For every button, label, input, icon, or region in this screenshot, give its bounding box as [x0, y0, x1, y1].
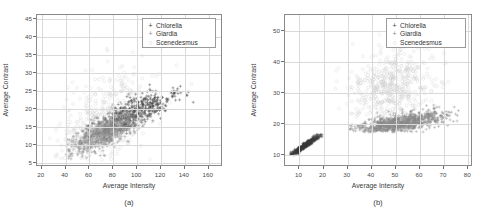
- y-axis-tick: [281, 30, 284, 31]
- x-axis-tick-label: 50: [391, 171, 398, 178]
- y-axis-tick-label: 30: [14, 68, 32, 75]
- y-axis-tick-label: 40: [262, 57, 280, 64]
- gridline-vertical: [324, 15, 325, 165]
- x-axis-tick: [208, 166, 209, 169]
- legend-marker-plus-icon: +: [146, 30, 155, 37]
- legend-item-chlorella: +Chlorella: [390, 21, 461, 30]
- x-axis-tick: [443, 166, 444, 169]
- x-axis-title-a: Average Intensity: [103, 182, 155, 189]
- legend-label: Scenedesmus: [156, 39, 198, 46]
- legend-label: Scenedesmus: [400, 39, 442, 46]
- y-axis-tick: [281, 123, 284, 124]
- scatter-figure: 2040608010012014016051015202530354045 +C…: [0, 0, 502, 218]
- legend-b: +Chlorella+Giardia○Scenedesmus: [386, 18, 466, 48]
- legend-item-scenedesmus: ○Scenedesmus: [390, 38, 461, 47]
- legend-label: Chlorella: [400, 22, 426, 29]
- y-axis-tick-label: 10: [14, 141, 32, 148]
- x-axis-tick-label: 20: [37, 171, 44, 178]
- x-axis-tick: [395, 166, 396, 169]
- y-axis-tick-label: 35: [14, 50, 32, 57]
- y-axis-tick: [33, 126, 36, 127]
- y-axis-tick: [33, 144, 36, 145]
- y-axis-tick-label: 15: [14, 123, 32, 130]
- gridline-horizontal: [37, 55, 221, 56]
- y-axis-tick-label: 30: [262, 88, 280, 95]
- x-axis-tick: [65, 166, 66, 169]
- x-axis-tick-label: 60: [85, 171, 92, 178]
- legend-marker-plus-icon: +: [390, 30, 399, 37]
- x-axis-tick: [467, 166, 468, 169]
- x-axis-tick: [88, 166, 89, 169]
- x-axis-tick-label: 40: [367, 171, 374, 178]
- gridline-horizontal: [285, 93, 471, 94]
- gridline-horizontal: [285, 155, 471, 156]
- y-axis-tick: [33, 54, 36, 55]
- x-axis-tick-label: 10: [295, 171, 302, 178]
- y-axis-tick-label: 20: [14, 105, 32, 112]
- x-axis-tick: [112, 166, 113, 169]
- series-chlorella: [289, 133, 324, 157]
- gridline-horizontal: [37, 91, 221, 92]
- series-scenedesmus: [48, 47, 193, 161]
- y-axis-tick: [281, 92, 284, 93]
- gridline-vertical: [468, 15, 469, 165]
- x-axis-tick-label: 20: [319, 171, 326, 178]
- gridline-horizontal: [37, 163, 221, 164]
- y-axis-title-a: Average Contrast: [2, 64, 9, 117]
- gridline-vertical: [348, 15, 349, 165]
- legend-a: +Chlorella+Giardia○Scenedesmus: [142, 18, 216, 48]
- x-axis-title-b: Average Intensity: [352, 182, 404, 189]
- legend-item-chlorella: +Chlorella: [146, 21, 211, 30]
- x-axis-tick-label: 80: [464, 171, 471, 178]
- y-axis-tick-label: 20: [262, 119, 280, 126]
- y-axis-tick-label: 5: [14, 159, 32, 166]
- x-axis-tick: [160, 166, 161, 169]
- x-axis-tick: [371, 166, 372, 169]
- legend-marker-plus-icon: +: [146, 22, 155, 29]
- y-axis-tick: [33, 36, 36, 37]
- y-axis-tick: [33, 90, 36, 91]
- legend-marker-circle-icon: ○: [146, 39, 155, 46]
- x-axis-tick-label: 120: [155, 171, 165, 178]
- y-axis-tick-label: 50: [262, 26, 280, 33]
- gridline-horizontal: [285, 62, 471, 63]
- x-axis-tick-label: 30: [343, 171, 350, 178]
- panel-caption-a: (a): [124, 198, 133, 207]
- panel-a: 2040608010012014016051015202530354045 +C…: [0, 0, 251, 218]
- gridline-horizontal: [37, 73, 221, 74]
- gridline-horizontal: [37, 127, 221, 128]
- x-axis-tick-label: 80: [109, 171, 116, 178]
- legend-marker-plus-icon: +: [390, 22, 399, 29]
- x-axis-tick-label: 140: [179, 171, 189, 178]
- legend-marker-circle-icon: ○: [390, 39, 399, 46]
- x-axis-tick-label: 40: [61, 171, 68, 178]
- y-axis-tick-label: 10: [262, 150, 280, 157]
- y-axis-tick-label: 45: [14, 14, 32, 21]
- x-axis-tick: [347, 166, 348, 169]
- x-axis-tick: [323, 166, 324, 169]
- x-axis-tick-label: 160: [203, 171, 213, 178]
- y-axis-tick: [33, 18, 36, 19]
- x-axis-tick: [184, 166, 185, 169]
- legend-item-giardia: +Giardia: [390, 30, 461, 39]
- y-axis-tick-label: 25: [14, 87, 32, 94]
- gridline-vertical: [299, 15, 300, 165]
- x-axis-tick-label: 100: [131, 171, 141, 178]
- y-axis-tick-label: 40: [14, 32, 32, 39]
- legend-label: Giardia: [156, 30, 177, 37]
- x-axis-tick-label: 70: [440, 171, 447, 178]
- y-axis-title-b: Average Contrast: [250, 64, 257, 117]
- gridline-horizontal: [37, 109, 221, 110]
- panel-caption-b: (b): [373, 198, 382, 207]
- y-axis-tick: [281, 154, 284, 155]
- x-axis-tick: [136, 166, 137, 169]
- x-axis-tick: [298, 166, 299, 169]
- y-axis-tick: [281, 61, 284, 62]
- y-axis-tick: [33, 162, 36, 163]
- panel-b: 10203040506070801020304050 +Chlorella+Gi…: [251, 0, 502, 218]
- y-axis-tick: [33, 108, 36, 109]
- y-axis-tick: [33, 72, 36, 73]
- legend-label: Chlorella: [156, 22, 182, 29]
- x-axis-tick: [419, 166, 420, 169]
- x-axis-tick: [41, 166, 42, 169]
